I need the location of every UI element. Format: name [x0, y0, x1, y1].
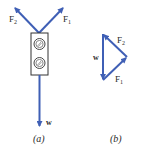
panel-b: F2 w F1 (b): [93, 34, 127, 145]
caption-a: (a): [33, 133, 45, 145]
caption-b: (b): [110, 133, 122, 145]
f1-arrow: [39, 8, 63, 33]
f2-label: F2: [9, 14, 17, 25]
f2-arrow: [15, 8, 39, 33]
diagram-svg: F2 F1 w (a) F2 w F1 (b): [0, 0, 149, 151]
triangle-f2-label: F2: [117, 35, 125, 46]
force-diagram: F2 F1 w (a) F2 w F1 (b): [0, 0, 149, 151]
w-label: w: [46, 118, 52, 127]
triangle-w-label: w: [93, 53, 99, 62]
panel-a: F2 F1 w (a): [9, 8, 71, 145]
triangle-f1-label: F1: [115, 74, 123, 85]
triangle-f2-arrow: [104, 35, 127, 57]
traffic-light-icon: [31, 33, 48, 75]
f1-label: F1: [63, 14, 71, 25]
